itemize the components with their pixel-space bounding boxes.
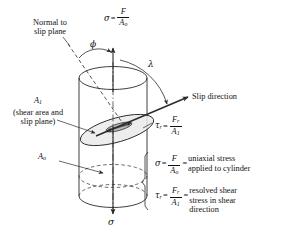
- area-original-label: Ao: [38, 152, 46, 164]
- legend-tau-equals1: =: [163, 184, 168, 200]
- sigma-top-fraction: F Ao: [117, 8, 129, 29]
- leader-normal-label: [63, 37, 70, 46]
- tau-plane-numerator: Fr: [170, 116, 182, 126]
- sigma-top-lhs: σ: [104, 14, 110, 23]
- phi-angle-label: ϕ: [90, 40, 96, 49]
- area-shear-symbol: A1: [2, 96, 74, 108]
- legend-tau-description: resolved shear stress in shear direction: [189, 184, 237, 215]
- shear-area-label-block: A1 (shear area and slip plane): [2, 96, 74, 127]
- shear-note-line1: (shear area and: [2, 108, 74, 117]
- sigma-top-numerator: F: [117, 8, 129, 17]
- legend-tau-fraction: Fr A1: [170, 187, 182, 209]
- legend-tau-numerator: Fr: [170, 187, 182, 197]
- legend-sigma-description: uniaxial stress applied to cylinder: [188, 152, 250, 173]
- legend-sigma-fraction: F Ao: [168, 155, 180, 177]
- legend-tau-equals2: =: [184, 184, 189, 200]
- tau-plane-lhs: τr: [155, 121, 162, 133]
- sigma-top-equation: σ = F Ao: [104, 8, 130, 29]
- legend-sigma-lhs: σ: [155, 152, 161, 171]
- sigma-top-denominator: Ao: [117, 17, 129, 29]
- legend-tau-denominator: A1: [170, 197, 182, 209]
- legend-tau-lhs: τr: [155, 184, 162, 203]
- normal-label-line1: Normal to: [18, 18, 82, 27]
- leader-area-original: [59, 161, 103, 173]
- legend-sigma-equals2: =: [182, 152, 187, 168]
- tau-plane-equation: τr = Fr A1: [155, 116, 183, 138]
- figure-canvas: Normal to slip plane ϕ λ σ = F Ao Slip d…: [0, 0, 303, 240]
- phi-angle-arc: [79, 49, 111, 58]
- lambda-angle-arc: [120, 60, 167, 104]
- sigma-top-equals: =: [111, 14, 116, 23]
- normal-to-slip-plane-label: Normal to slip plane: [18, 18, 82, 37]
- slip-plane-normal-line: [68, 44, 126, 128]
- legend-item-sigma: σ = F Ao = uniaxial stress applied to cy…: [155, 152, 250, 177]
- legend-item-tau: τr = Fr A1 = resolved shear stress in sh…: [155, 184, 237, 215]
- normal-label-line2: slip plane: [18, 27, 82, 36]
- tau-plane-equals: =: [163, 122, 168, 131]
- legend-sigma-equals1: =: [162, 152, 167, 168]
- lambda-angle-label: λ: [148, 60, 154, 69]
- legend-sigma-numerator: F: [168, 155, 180, 165]
- shear-note-line2: slip plane): [2, 117, 74, 126]
- tau-plane-fraction: Fr A1: [170, 116, 182, 138]
- legend-sigma-denominator: Ao: [168, 165, 180, 177]
- sigma-bottom-label: σ: [108, 218, 114, 227]
- tau-plane-denominator: A1: [170, 126, 182, 138]
- slip-direction-label: Slip direction: [192, 92, 237, 101]
